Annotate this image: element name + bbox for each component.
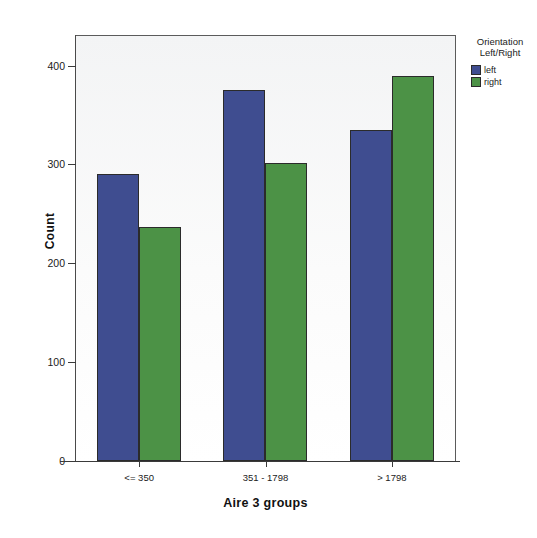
y-axis-tick-label: 0 xyxy=(0,455,65,467)
y-axis-tick xyxy=(68,164,76,165)
y-axis-tick-label: 100 xyxy=(0,356,65,368)
x-axis-tick xyxy=(266,462,267,467)
y-axis-tick-label: 400 xyxy=(0,60,65,72)
bar-right-1[interactable] xyxy=(265,163,307,461)
bar-group xyxy=(202,36,328,461)
legend-title: Orientation Left/Right xyxy=(463,36,537,58)
x-axis-tick xyxy=(392,462,393,467)
x-axis-title: Aire 3 groups xyxy=(75,496,456,510)
x-axis-tick-label: <= 350 xyxy=(79,472,199,483)
bar-right-2[interactable] xyxy=(392,76,434,461)
legend-title-line-2: Left/Right xyxy=(463,47,537,58)
legend-item-left[interactable]: left xyxy=(471,65,537,75)
legend-label: left xyxy=(484,65,496,75)
x-axis-tick xyxy=(139,462,140,467)
bar-left-2[interactable] xyxy=(350,130,392,461)
y-axis-tick-label: 300 xyxy=(0,158,65,170)
bar-chart: 0100200300400 Count <= 350351 - 1798> 17… xyxy=(0,0,537,538)
bar-right-0[interactable] xyxy=(139,227,181,461)
bar-left-1[interactable] xyxy=(223,90,265,461)
y-axis-title: Count xyxy=(43,171,57,291)
bar-left-0[interactable] xyxy=(97,174,139,461)
legend: Orientation Left/Right leftright xyxy=(463,36,537,89)
legend-label: right xyxy=(484,77,502,87)
bars-layer xyxy=(76,36,455,461)
legend-item-right[interactable]: right xyxy=(471,77,537,87)
x-axis-line xyxy=(60,461,460,462)
legend-swatch-left-icon xyxy=(471,65,481,75)
legend-title-line-1: Orientation xyxy=(463,36,537,47)
y-axis-tick xyxy=(68,66,76,67)
legend-items: leftright xyxy=(463,65,537,87)
x-axis-tick-label: > 1798 xyxy=(332,472,452,483)
bar-group xyxy=(76,36,202,461)
y-axis-tick xyxy=(68,362,76,363)
bar-group xyxy=(329,36,455,461)
legend-swatch-right-icon xyxy=(471,77,481,87)
y-axis-tick xyxy=(68,263,76,264)
x-axis-tick-label: 351 - 1798 xyxy=(206,472,326,483)
